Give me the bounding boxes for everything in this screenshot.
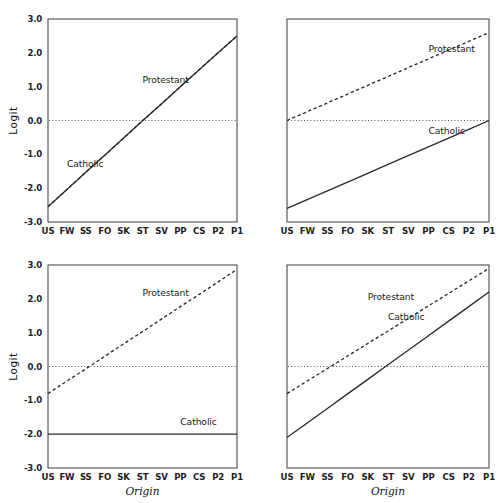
x-tick-label: FO (341, 472, 354, 482)
series-annotation-catholic: Catholic (388, 311, 424, 322)
series-line-protestant (287, 268, 489, 393)
x-tick-label: ST (382, 472, 394, 482)
x-tick-label: SK (362, 472, 375, 482)
x-tick-label: SS (322, 472, 334, 482)
x-tick-label: PP (422, 472, 434, 482)
series-annotation-protestant: Protestant (368, 291, 415, 302)
x-tick-label: P1 (483, 472, 495, 482)
x-tick-label: SV (402, 472, 415, 482)
multi-panel-logit-figure: 3.02.01.00.0-1.0-2.0-3.0USFWSSFOSKSTSVPP… (0, 0, 500, 503)
x-tick-label: CS (442, 472, 454, 482)
x-tick-label: P2 (463, 472, 475, 482)
x-tick-label: US (281, 472, 294, 482)
panel-bottom-right-canvas: USFWSSFOSKSTSVPPCSP2P1OriginProtestantCa… (0, 0, 500, 503)
panel-bottom-right: USFWSSFOSKSTSVPPCSP2P1OriginProtestantCa… (0, 0, 500, 503)
x-tick-label: FW (300, 472, 316, 482)
x-axis-title: Origin (371, 485, 405, 497)
